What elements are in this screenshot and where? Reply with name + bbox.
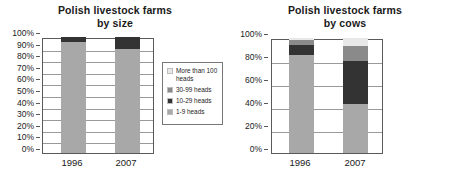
y-tick-mark [36, 79, 40, 80]
y-tick-mark [264, 80, 268, 81]
y-tick-label: 20% [17, 121, 34, 131]
plot-area-by-size [42, 38, 154, 154]
y-tick-label: 20% [245, 121, 262, 131]
legend-item-label: More than 100 heads [176, 67, 219, 82]
bar-segment-1-9-heads [343, 104, 368, 153]
y-tick-mark [36, 149, 40, 150]
legend-item: 30-99 heads [167, 86, 219, 94]
bar-segment-30-99-heads [289, 40, 314, 45]
y-tick-label: 50% [17, 86, 34, 96]
legend-item: 1-9 heads [167, 108, 219, 116]
bar-segment-1-9-heads [61, 42, 86, 153]
y-tick-mark [36, 91, 40, 92]
chart-title-by-cows: Polish livestock farms by cows [230, 4, 460, 29]
y-tick-mark [36, 126, 40, 127]
bar-2007 [115, 37, 140, 153]
y-tick-label: 90% [17, 40, 34, 50]
y-tick-label: 60% [17, 74, 34, 84]
bar-segment-10-29-heads [289, 45, 314, 55]
y-tick-mark [36, 103, 40, 104]
y-axis-labels-by-size: 0%10%20%30%40%50%60%70%80%90%100% [2, 33, 40, 159]
legend-item-label: 30-99 heads [176, 86, 212, 94]
y-tick-mark [264, 126, 268, 127]
legend-item: More than 100 heads [167, 67, 219, 82]
chart-title-line1: Polish livestock farms [288, 4, 402, 16]
bar-segment-more-than-100-heads [289, 38, 314, 40]
y-tick-label: 10% [17, 132, 34, 142]
chart-title-line2: by cows [230, 17, 460, 30]
bar-1996 [61, 37, 86, 153]
legend-swatch-icon [167, 109, 173, 115]
bar-segment-1-9-heads [289, 55, 314, 153]
y-tick-label: 0% [22, 144, 34, 154]
chart-by-cows: Polish livestock farms by cows 0%20%40%6… [230, 0, 460, 181]
y-tick-mark [36, 33, 40, 34]
chart-by-size: Polish livestock farms by size 0%10%20%3… [0, 0, 230, 181]
y-tick-mark [36, 114, 40, 115]
y-tick-label: 60% [245, 75, 262, 85]
plot-area-by-cows [271, 39, 383, 154]
y-tick-mark [36, 56, 40, 57]
y-tick-mark [36, 68, 40, 69]
y-tick-mark [264, 57, 268, 58]
x-axis-label-2007-by-size: 2007 [104, 157, 148, 168]
bar-segment-10-29-heads [115, 37, 140, 49]
y-tick-label: 70% [17, 63, 34, 73]
y-tick-mark [36, 45, 40, 46]
bar-1996 [289, 38, 314, 153]
y-tick-label: 30% [17, 109, 34, 119]
y-tick-label: 0% [250, 144, 262, 154]
legend-by-size: More than 100 heads30-99 heads10-29 head… [162, 62, 223, 125]
legend-swatch-icon [167, 98, 173, 104]
y-tick-label: 100% [12, 28, 34, 38]
bar-segment-1-9-heads [115, 49, 140, 153]
y-tick-label: 40% [17, 98, 34, 108]
y-tick-label: 80% [17, 51, 34, 61]
bar-segment-30-99-heads [343, 46, 368, 61]
y-tick-mark [264, 103, 268, 104]
y-axis-labels-by-cows: 0%20%40%60%80%100% [232, 34, 268, 159]
chart-title-by-size: Polish livestock farms by size [0, 4, 230, 29]
y-tick-label: 80% [245, 52, 262, 62]
y-tick-mark [264, 34, 268, 35]
bar-segment-10-29-heads [343, 61, 368, 104]
legend-swatch-icon [167, 68, 173, 74]
legend-item-label: 1-9 heads [176, 108, 204, 116]
x-axis-label-1996-by-cows: 1996 [278, 157, 322, 168]
chart-title-line2: by size [0, 17, 230, 30]
legend-item: 10-29 heads [167, 97, 219, 105]
x-axis-label-2007-by-cows: 2007 [333, 157, 377, 168]
figure-two-stacked-bar-charts: Polish livestock farms by size 0%10%20%3… [0, 0, 460, 181]
bar-segment-10-29-heads [61, 37, 86, 42]
legend-item-label: 10-29 heads [176, 97, 212, 105]
y-tick-mark [36, 137, 40, 138]
x-axis-label-1996-by-size: 1996 [50, 157, 94, 168]
bar-segment-more-than-100-heads [343, 38, 368, 46]
y-tick-mark [264, 149, 268, 150]
y-tick-label: 100% [240, 29, 262, 39]
bar-2007 [343, 38, 368, 153]
y-tick-label: 40% [245, 98, 262, 108]
chart-title-line1: Polish livestock farms [58, 4, 172, 16]
legend-swatch-icon [167, 87, 173, 93]
